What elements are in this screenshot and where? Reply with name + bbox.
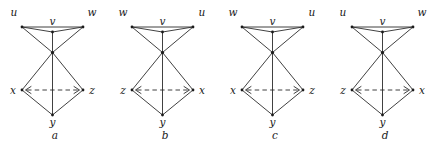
edge-center-midleft [132, 53, 163, 91]
node-midleft [131, 89, 134, 92]
graph-panel-d: u w v z x y d [330, 0, 440, 147]
vertex-label-midright: z [88, 84, 95, 96]
node-midleft [351, 89, 354, 92]
vertex-label-midleft: z [119, 84, 126, 96]
edge-midright-bottom [273, 90, 304, 115]
edge-center-midright [273, 53, 304, 91]
node-topleft [351, 26, 354, 29]
vertex-label-topright: u [199, 6, 206, 18]
node-v [381, 31, 384, 34]
node-center [161, 51, 164, 54]
vertex-label-v: v [380, 15, 386, 27]
panel-caption: a [52, 129, 58, 141]
node-midleft [21, 89, 24, 92]
node-topleft [241, 26, 244, 29]
edge-center-midright [163, 53, 194, 91]
node-v [271, 31, 274, 34]
edge-midright-bottom [383, 90, 414, 115]
edges-group-d [352, 27, 413, 115]
node-topright [302, 26, 305, 29]
edge-midleft-bottom [352, 90, 383, 115]
vertex-label-midleft: z [339, 84, 346, 96]
node-topleft [21, 26, 24, 29]
node-center [381, 51, 384, 54]
vertex-label-bottom: y [159, 116, 167, 128]
edge-center-midleft [22, 53, 53, 91]
edges-group-b [132, 27, 193, 115]
edge-midleft-bottom [242, 90, 273, 115]
panel-caption: d [382, 129, 389, 141]
edge-midright-bottom [163, 90, 194, 115]
node-midright [412, 89, 415, 92]
panel-caption: c [272, 129, 278, 141]
vertex-label-topleft: u [340, 6, 347, 18]
vertex-label-v: v [270, 15, 276, 27]
vertex-label-bottom: y [379, 116, 387, 128]
node-midright [192, 89, 195, 92]
edge-midleft-bottom [132, 90, 163, 115]
node-v [161, 31, 164, 34]
node-center [271, 51, 274, 54]
node-topright [412, 26, 415, 29]
node-topright [82, 26, 85, 29]
vertex-label-midright: x [199, 84, 205, 96]
edge-midright-bottom [53, 90, 84, 115]
vertex-label-topright: u [309, 6, 316, 18]
vertex-label-topleft: w [229, 6, 238, 18]
vertex-label-topleft: u [11, 6, 18, 18]
figure-row: u w v x z y a [0, 0, 441, 147]
vertex-label-midleft: x [10, 84, 16, 96]
edge-midleft-bottom [22, 90, 53, 115]
node-midright [302, 89, 305, 92]
vertex-label-bottom: y [269, 116, 277, 128]
node-midright [82, 89, 85, 92]
edges-group-c [242, 27, 303, 115]
node-topleft [131, 26, 134, 29]
vertex-label-topright: w [88, 6, 97, 18]
edge-center-midleft [352, 53, 383, 91]
node-center [51, 51, 54, 54]
edge-center-midleft [242, 53, 273, 91]
edge-center-midright [53, 53, 84, 91]
panel-caption: b [162, 129, 169, 141]
vertex-label-topleft: w [119, 6, 128, 18]
vertex-label-midright: x [419, 84, 425, 96]
edges-group-a [22, 27, 83, 115]
node-midleft [241, 89, 244, 92]
graph-panel-c: w u v x z y c [220, 0, 330, 147]
vertex-label-midleft: x [230, 84, 236, 96]
vertex-label-bottom: y [49, 116, 57, 128]
vertex-label-v: v [50, 15, 56, 27]
vertex-label-topright: w [418, 6, 427, 18]
vertex-label-v: v [160, 15, 166, 27]
graph-panel-a: u w v x z y a [0, 0, 110, 147]
graph-panel-b: w u v z x y b [110, 0, 220, 147]
node-topright [192, 26, 195, 29]
vertex-label-midright: z [308, 84, 315, 96]
edge-center-midright [383, 53, 414, 91]
node-v [51, 31, 54, 34]
